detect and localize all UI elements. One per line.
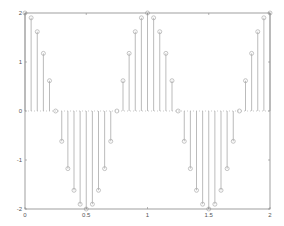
y-tick-label: 2 (19, 10, 23, 16)
stem (84, 111, 88, 211)
stem (109, 111, 113, 143)
stem (139, 16, 143, 111)
stem-plot: 00.511.52 -2-1012 (0, 0, 284, 226)
stem (170, 79, 174, 111)
stem (237, 109, 241, 113)
x-tick-label: 1.5 (205, 212, 214, 218)
stem (133, 30, 137, 111)
stem (250, 51, 254, 111)
stem (97, 111, 101, 192)
stem (201, 111, 205, 206)
y-axis-ticks: -2-1012 (17, 10, 270, 212)
stem (66, 111, 70, 171)
stem (72, 111, 76, 192)
stem (164, 51, 168, 111)
y-tick-label: 1 (19, 59, 23, 65)
stem (219, 111, 223, 192)
stem (256, 30, 260, 111)
stem (48, 79, 52, 111)
stem (158, 30, 162, 111)
stem (146, 11, 150, 111)
stem (103, 111, 107, 171)
stem (213, 111, 217, 206)
y-tick-label: -1 (17, 157, 23, 163)
y-tick-label: 0 (19, 108, 23, 114)
stem-marker (237, 109, 241, 113)
stem (195, 111, 199, 192)
x-tick-label: 0 (23, 212, 27, 218)
stem (188, 111, 192, 171)
x-tick-label: 0.5 (82, 212, 91, 218)
stem (29, 16, 33, 111)
x-tick-label: 1 (146, 212, 150, 218)
stem (41, 51, 45, 111)
stem (262, 16, 266, 111)
stem (244, 79, 248, 111)
stem (207, 111, 211, 211)
stem (182, 111, 186, 143)
stem (60, 111, 64, 143)
stem (127, 51, 131, 111)
x-tick-label: 2 (268, 212, 272, 218)
stem (225, 111, 229, 171)
stem (231, 111, 235, 143)
stem (152, 16, 156, 111)
stem (90, 111, 94, 206)
stem-series (23, 11, 272, 211)
stem (121, 79, 125, 111)
y-tick-label: -2 (17, 206, 23, 212)
stem (78, 111, 82, 206)
stem (35, 30, 39, 111)
